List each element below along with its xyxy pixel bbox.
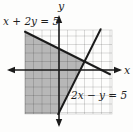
- equation-label-line2: 2x − y = 5: [70, 89, 127, 101]
- y-axis-label: y: [57, 0, 65, 13]
- x-axis-label: x: [124, 64, 131, 77]
- figure-linear-system-graph: x + 2y = 5 2x − y = 5 x y: [0, 0, 133, 132]
- graph-svg: x + 2y = 5 2x − y = 5 x y: [0, 0, 133, 132]
- equation-label-line1: x + 2y = 5: [3, 15, 59, 27]
